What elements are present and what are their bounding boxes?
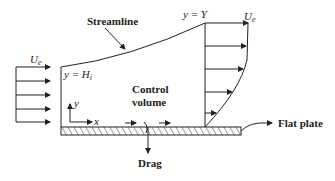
inlet-velocity-profile	[16, 67, 50, 122]
flat-plate	[61, 127, 241, 135]
control-volume-diagram: Ue Streamline y = Hi Control volume y = …	[0, 0, 335, 181]
flat-plate-pointer	[241, 123, 272, 131]
x-axis-label: x	[93, 115, 99, 127]
outlet-velocity-profile	[205, 23, 248, 127]
drag-label: Drag	[138, 157, 162, 169]
inlet-velocity-label: Ue	[30, 53, 42, 67]
flat-plate-label: Flat plate	[278, 117, 323, 129]
control-volume-label: Control	[132, 83, 168, 95]
outlet-velocity-label: Ue	[244, 10, 256, 24]
inlet-height-label: y = Hi	[63, 68, 92, 82]
streamline-label: Streamline	[87, 15, 138, 27]
control-volume-label-2: volume	[132, 96, 166, 108]
y-axis-label: y	[73, 97, 79, 109]
streamline-pointer	[105, 28, 125, 49]
outlet-height-label: y = Y	[182, 8, 209, 20]
